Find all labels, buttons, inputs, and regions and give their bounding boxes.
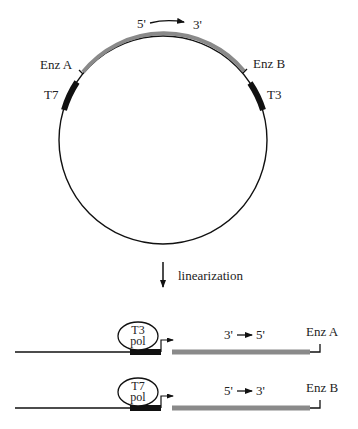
polymerase-suffix: pol	[130, 390, 146, 404]
plasmid-promoter-right-label: T3	[267, 87, 281, 102]
enz-site-bracket	[310, 344, 320, 352]
plasmid-orientation-arrow-icon	[150, 21, 184, 23]
linearization-label: linearization	[178, 268, 243, 283]
plasmid-orientation-end: 3'	[193, 17, 202, 32]
circular-plasmid: 5' 3' Enz A Enz B T7 T3	[40, 16, 285, 244]
orientation-end: 3'	[256, 383, 265, 398]
orientation-start: 3'	[224, 327, 233, 342]
orientation-end: 5'	[256, 327, 265, 342]
plasmid-site-right-label: Enz B	[253, 56, 285, 71]
linear-construct-1: T3 pol 3' 5' Enz A	[15, 322, 339, 355]
transcription-start-arrow-icon	[161, 340, 173, 352]
t7-promoter-block	[64, 82, 77, 110]
linear-construct-2: T7 pol 5' 3' Enz B	[15, 378, 338, 411]
enz-site-label: Enz B	[306, 380, 338, 395]
plasmid-site-left-label: Enz A	[40, 57, 73, 72]
plasmid-promoter-left-label: T7	[44, 87, 59, 102]
orientation-start: 5'	[224, 383, 233, 398]
t3-promoter-block	[250, 83, 263, 110]
enz-site-bracket	[310, 400, 320, 408]
plasmid-backbone	[59, 36, 267, 244]
linearization-step: linearization	[163, 262, 243, 287]
polymerase-suffix: pol	[130, 334, 146, 348]
transcription-start-arrow-icon	[161, 396, 173, 408]
plasmid-orientation-start: 5'	[137, 16, 146, 31]
plasmid-linearization-diagram: 5' 3' Enz A Enz B T7 T3 linearization T3…	[0, 0, 358, 429]
enz-site-label: Enz A	[306, 324, 339, 339]
